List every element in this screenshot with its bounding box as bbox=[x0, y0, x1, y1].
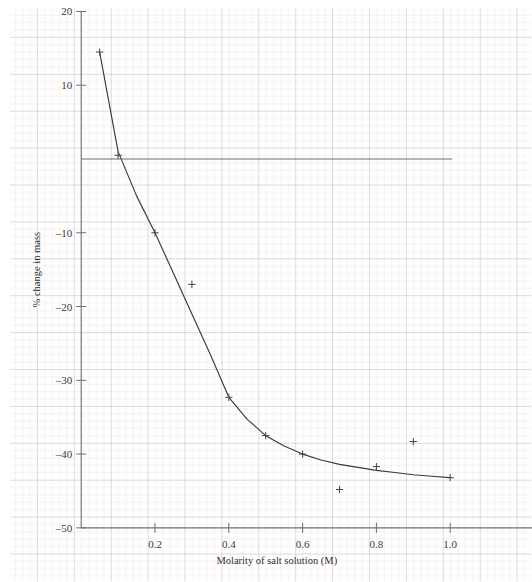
y-tick-label: –40 bbox=[55, 448, 73, 460]
y-tick-label: –30 bbox=[55, 374, 73, 386]
y-tick-label: 20 bbox=[61, 5, 73, 17]
graph-paper-background: 2010–10–20–30–40–500.20.40.60.81.0Molari… bbox=[0, 0, 532, 582]
grid-area bbox=[10, 9, 531, 582]
x-tick-label: 0.2 bbox=[148, 538, 162, 550]
y-tick-label: 10 bbox=[61, 79, 73, 91]
x-tick-label: 0.8 bbox=[370, 538, 384, 550]
x-tick-label: 1.0 bbox=[443, 538, 457, 550]
x-tick-label: 0.6 bbox=[296, 538, 310, 550]
chart-canvas: 2010–10–20–30–40–500.20.40.60.81.0Molari… bbox=[0, 0, 532, 582]
y-axis-title: % change in mass bbox=[31, 232, 42, 308]
y-tick-label: –20 bbox=[55, 301, 73, 313]
y-tick-label: –10 bbox=[55, 227, 73, 239]
y-tick-label: –50 bbox=[55, 522, 73, 534]
x-tick-label: 0.4 bbox=[222, 538, 236, 550]
x-axis-title: Molarity of salt solution (M) bbox=[216, 555, 337, 567]
